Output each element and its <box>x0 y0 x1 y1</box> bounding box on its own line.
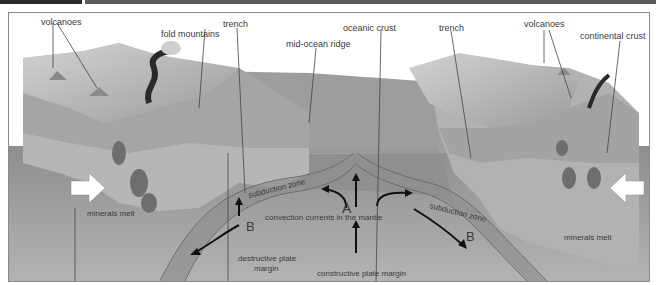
label-fold-mountains: fold mountains <box>161 29 220 39</box>
diagram-frame: volcanoes fold mountains trench mid-ocea… <box>8 12 650 282</box>
label-volcanoes-left: volcanoes <box>41 17 82 27</box>
marker-a: A <box>342 200 352 216</box>
label-destructive-margin-2: margin <box>254 264 278 273</box>
label-destructive-margin-1: destructive plate <box>238 254 297 263</box>
plate-tectonics-diagram: volcanoes fold mountains trench mid-ocea… <box>9 13 650 282</box>
header-bar-right <box>85 0 656 4</box>
label-trench-left: trench <box>223 19 248 29</box>
label-trench-right: trench <box>439 23 464 33</box>
marker-b-left: B <box>246 219 255 234</box>
label-minerals-melt-right: minerals melt <box>564 233 612 242</box>
header-bar-left <box>0 0 82 4</box>
label-continental-crust: continental crust <box>580 31 646 41</box>
label-mid-ocean-ridge: mid-ocean ridge <box>286 39 351 49</box>
label-oceanic-crust: oceanic crust <box>343 23 397 33</box>
label-volcanoes-right: volcanoes <box>524 19 565 29</box>
label-convection-currents: convection currents in the mantle <box>265 213 383 222</box>
marker-b-right: B <box>466 229 475 244</box>
label-minerals-melt-left: minerals melt <box>87 209 135 218</box>
label-constructive-margin: constructive plate margin <box>317 269 406 278</box>
